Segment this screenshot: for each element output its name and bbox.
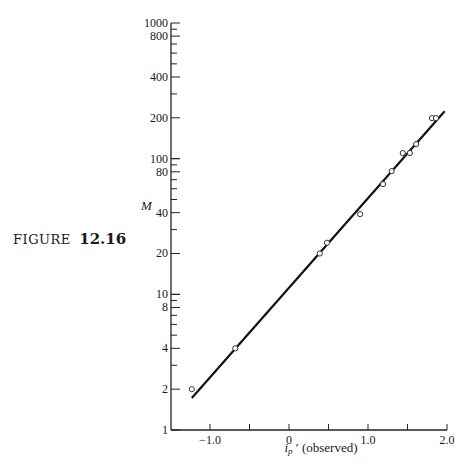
data-point-marker	[380, 181, 385, 186]
y-tick-label: 1000	[144, 16, 168, 30]
data-point-marker	[324, 240, 329, 245]
y-tick-label: 800	[150, 29, 168, 43]
y-tick-label: 200	[150, 111, 168, 125]
x-tick-label: −1.0	[199, 433, 221, 447]
y-tick-label: 2	[162, 382, 168, 396]
data-point-marker	[189, 387, 194, 392]
y-tick-label: 8	[162, 300, 168, 314]
y-tick-label: 400	[150, 70, 168, 84]
data-point-marker	[407, 150, 412, 155]
x-axis-label: ip ′ (observed)	[284, 440, 357, 456]
y-tick-label: 10	[156, 287, 168, 301]
y-axis-label: M	[140, 198, 153, 213]
y-tick-label: 20	[156, 246, 168, 260]
y-tick-label: 80	[156, 165, 168, 179]
y-tick-label: 4	[162, 341, 168, 355]
data-point-marker	[400, 150, 405, 155]
chart: 1248102040801002004008001000 −1.001.02.0…	[0, 0, 469, 474]
x-tick-label: 1.0	[361, 433, 376, 447]
data-points	[189, 116, 438, 392]
x-tick-label: 2.0	[440, 433, 455, 447]
y-tick-label: 100	[150, 152, 168, 166]
y-tick-label: 40	[156, 206, 168, 220]
data-point-marker	[389, 168, 394, 173]
y-axis-ticks: 1248102040801002004008001000	[144, 16, 180, 437]
data-point-marker	[233, 346, 238, 351]
data-point-marker	[414, 142, 419, 147]
data-point-marker	[358, 212, 363, 217]
y-tick-label: 1	[162, 423, 168, 437]
data-point-marker	[433, 116, 438, 121]
data-point-marker	[317, 251, 322, 256]
axes	[171, 23, 447, 430]
